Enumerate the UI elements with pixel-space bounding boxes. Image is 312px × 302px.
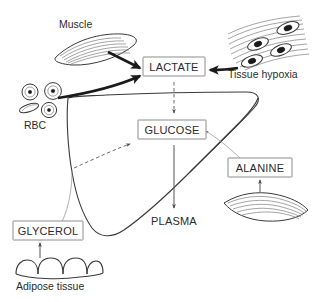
arrow-muscle-to-lactate [108,52,140,68]
node-glucose[interactable]: GLUCOSE [138,120,206,139]
line-glycerol-to-liver [62,170,72,222]
muscle-fiber-illustration-lower [224,193,308,221]
arrow-hypoxia-to-lactate [210,68,238,70]
adipose-tissue-illustration [16,258,103,279]
node-plasma-label: PLASMA [151,215,197,227]
rbc-illustration [18,83,61,118]
node-lactate-label: LACTATE [149,61,198,73]
muscle-label: Muscle [59,18,92,30]
line-alanine-to-liver [206,131,242,160]
rbc-cell-edge-on [18,101,39,114]
rbc-cell [41,102,56,117]
node-alanine[interactable]: ALANINE [228,158,292,177]
pathway-figure: Muscle Tissue hypoxia [0,0,312,302]
tissue-hypoxia-illustration [228,16,309,70]
node-glycerol[interactable]: GLYCEROL [13,221,83,240]
arrow-rbc-to-lactate [58,76,140,98]
node-alanine-label: ALANINE [236,162,284,174]
node-glucose-label: GLUCOSE [144,124,199,136]
arrow-liver-interior-to-glucose [74,144,130,168]
rbc-label: RBC [24,119,47,131]
adipose-tissue-label: Adipose tissue [16,280,84,292]
tissue-hypoxia-label: Tissue hypoxia [228,68,298,80]
rbc-cell [22,84,38,100]
node-lactate[interactable]: LACTATE [143,57,205,76]
node-glycerol-label: GLYCEROL [18,225,79,237]
